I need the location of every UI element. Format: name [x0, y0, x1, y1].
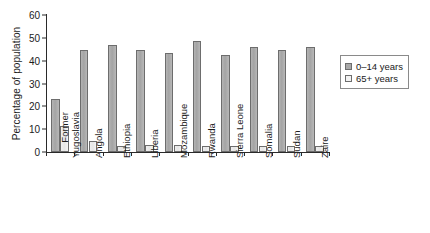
bar[interactable]	[221, 55, 230, 152]
legend-item-old[interactable]: 65+ years	[345, 72, 403, 84]
bar[interactable]	[136, 50, 145, 152]
legend-item-young[interactable]: 0–14 years	[345, 60, 403, 72]
x-axis-label: Zaire	[320, 136, 331, 158]
x-axis-label: Rwanda	[207, 123, 218, 158]
x-axis-label: Angola	[94, 128, 105, 158]
legend: 0–14 years 65+ years	[340, 55, 409, 89]
x-axis-label-line: Yugoslavia	[71, 112, 82, 158]
bar-chart: Percentage of population 0102030405060 F…	[0, 0, 430, 233]
x-axis-label: Sudan	[292, 131, 303, 158]
x-axis-label: Somalia	[264, 124, 275, 158]
x-axis-label-line: Ethiopia	[122, 124, 133, 158]
bar[interactable]	[193, 41, 202, 152]
x-axis-label-line: Sudan	[292, 131, 303, 158]
x-axis-label-line: Rwanda	[207, 123, 218, 158]
y-tick-mark	[42, 15, 46, 16]
legend-swatch-young-icon	[345, 63, 352, 70]
x-tick-mark	[46, 152, 47, 156]
y-axis-title: Percentage of population	[11, 14, 22, 154]
x-axis-label: Liberia	[150, 129, 161, 158]
y-tick-mark	[42, 83, 46, 84]
y-tick-mark	[42, 37, 46, 38]
x-axis-label-line: Mozambique	[179, 104, 190, 158]
legend-label-young: 0–14 years	[356, 61, 403, 72]
x-axis-label: FormerYugoslavia	[60, 112, 81, 158]
bar[interactable]	[108, 45, 117, 152]
bar[interactable]	[278, 50, 287, 152]
x-axis-label: Mozambique	[179, 104, 190, 158]
x-axis-label-line: Liberia	[150, 129, 161, 158]
y-tick-mark	[42, 129, 46, 130]
x-axis-label-line: Somalia	[264, 124, 275, 158]
y-tick-mark	[42, 106, 46, 107]
x-axis-label: Sierra Leone	[235, 104, 246, 158]
x-axis-label-line: Zaire	[320, 136, 331, 158]
legend-swatch-old-icon	[345, 75, 352, 82]
legend-label-old: 65+ years	[356, 73, 398, 84]
bar[interactable]	[165, 53, 174, 152]
x-axis-label-line: Angola	[94, 128, 105, 158]
bar[interactable]	[306, 47, 315, 152]
y-tick-mark	[42, 60, 46, 61]
x-axis-label-line: Sierra Leone	[235, 104, 246, 158]
x-axis-label: Ethiopia	[122, 124, 133, 158]
bar[interactable]	[250, 47, 259, 152]
